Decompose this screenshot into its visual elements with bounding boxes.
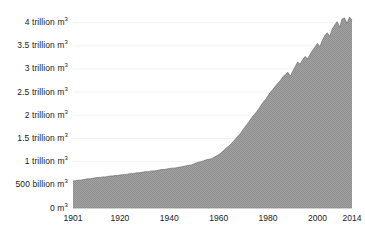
- cubic-superscript: 3: [65, 155, 68, 161]
- y-axis-label-text: 3 trillion m: [25, 63, 65, 73]
- x-axis-label: 1940: [149, 214, 189, 223]
- cubic-superscript: 3: [65, 178, 68, 184]
- y-axis-label-text: 2.5 trillion m: [17, 87, 64, 97]
- y-axis-label: 4 trillion m3: [25, 18, 68, 27]
- water-withdrawal-area-chart: 0 m3500 billion m31 trillion m31.5 trill…: [0, 0, 365, 236]
- cubic-superscript: 3: [65, 202, 68, 208]
- cubic-superscript: 3: [65, 39, 68, 45]
- y-axis-label-text: 3.5 trillion m: [17, 40, 64, 50]
- y-axis-label-text: 1.5 trillion m: [17, 133, 64, 143]
- y-axis-label-text: 500 billion m: [16, 179, 65, 189]
- y-axis-label-text: 1 trillion m: [25, 156, 65, 166]
- x-axis-label: 1901: [53, 214, 93, 223]
- y-axis-label-text: 4 trillion m: [25, 17, 65, 27]
- cubic-superscript: 3: [65, 109, 68, 115]
- y-axis-label-text: 2 trillion m: [25, 110, 65, 120]
- y-axis-label: 2.5 trillion m3: [17, 88, 68, 97]
- cubic-superscript: 3: [65, 132, 68, 138]
- y-axis-label: 3.5 trillion m3: [17, 41, 68, 50]
- cubic-superscript: 3: [65, 86, 68, 92]
- y-axis-label: 3 trillion m3: [25, 64, 68, 73]
- y-axis-label: 1 trillion m3: [25, 157, 68, 166]
- y-axis-label: 500 billion m3: [16, 180, 68, 189]
- y-axis-label-text: 0 m: [50, 203, 64, 213]
- x-axis-label: 1960: [199, 214, 239, 223]
- x-axis-label: 1980: [248, 214, 288, 223]
- x-axis-label: 2014: [332, 214, 365, 223]
- y-axis-label: 2 trillion m3: [25, 111, 68, 120]
- x-axis-label: 1920: [100, 214, 140, 223]
- y-axis-label: 1.5 trillion m3: [17, 134, 68, 143]
- cubic-superscript: 3: [65, 16, 68, 22]
- y-axis-label: 0 m3: [50, 204, 68, 213]
- cubic-superscript: 3: [65, 63, 68, 69]
